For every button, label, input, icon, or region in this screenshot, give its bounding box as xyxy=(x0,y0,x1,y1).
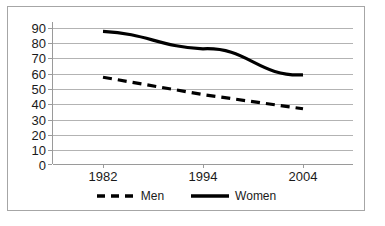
series-plot xyxy=(53,22,353,164)
legend-item-women[interactable]: Women xyxy=(190,190,276,202)
y-axis-tick-label: 30 xyxy=(12,114,46,127)
y-axis-tick xyxy=(48,164,52,165)
chart-legend: Men Women xyxy=(8,190,364,202)
plot-area xyxy=(53,22,353,163)
x-axis-tick-label: 2004 xyxy=(289,170,318,183)
series-line-women xyxy=(103,31,303,75)
legend-label-women: Women xyxy=(235,190,276,202)
series-line-men xyxy=(103,77,303,109)
x-axis-tick-label: 1982 xyxy=(89,170,118,183)
y-axis-tick-label: 90 xyxy=(12,22,46,35)
y-axis-tick-label: 10 xyxy=(12,144,46,157)
y-axis-tick-label: 20 xyxy=(12,129,46,142)
y-axis-labels: 90 80 70 60 50 40 30 20 10 0 xyxy=(8,7,46,210)
y-axis-tick-label: 50 xyxy=(12,83,46,96)
x-axis-tick-label: 1994 xyxy=(189,170,218,183)
solid-line-swatch xyxy=(190,191,230,201)
y-axis-tick-label: 80 xyxy=(12,37,46,50)
y-axis-tick-label: 40 xyxy=(12,98,46,111)
y-axis-tick-label: 60 xyxy=(12,68,46,81)
y-axis-tick-label: 70 xyxy=(12,52,46,65)
y-axis-tick-label: 0 xyxy=(12,159,46,172)
chart-container: 90 80 70 60 50 40 30 20 10 0 1982 1994 2… xyxy=(7,6,365,211)
legend-item-men[interactable]: Men xyxy=(96,190,164,202)
dashed-line-swatch xyxy=(96,191,136,201)
legend-label-men: Men xyxy=(141,190,164,202)
x-axis-line xyxy=(53,164,353,165)
